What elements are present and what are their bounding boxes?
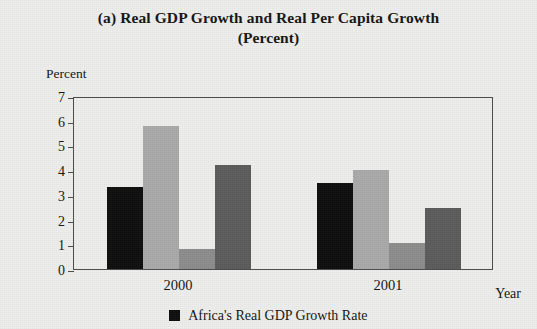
y-axis-unit-label: Percent [46,66,86,82]
bar [425,208,461,269]
bar [179,249,215,269]
bar [317,183,353,270]
x-axis-tick-label: 2000 [164,277,193,293]
y-axis-tick-label: 7 [58,91,65,105]
figure-title: (a) Real GDP Growth and Real Per Capita … [0,8,537,48]
y-axis-tick [68,172,74,173]
bar [107,187,143,269]
y-axis-tick [68,222,74,223]
y-axis-tick [68,147,74,148]
y-axis-tick [68,271,74,272]
y-axis-tick [68,123,74,124]
y-axis-tick-label: 2 [58,215,65,229]
y-axis-tick [68,197,74,198]
bar [143,126,179,269]
legend-color-swatch-icon [169,310,180,321]
bar [389,243,425,269]
plot-inner: 01234567 [74,98,492,269]
y-axis-tick-label: 4 [58,165,65,179]
y-axis-tick-label: 6 [58,116,65,130]
y-axis-tick-label: 3 [58,190,65,204]
x-axis-tick-label: 2001 [374,277,403,293]
legend-item: Africa's Real GDP Growth Rate [169,307,367,325]
chart-legend: Africa's Real GDP Growth Rate [0,307,537,325]
legend-item-label: Africa's Real GDP Growth Rate [188,308,367,323]
y-axis-tick [68,98,74,99]
y-axis-tick-label: 5 [58,140,65,154]
figure-title-line-1: (a) Real GDP Growth and Real Per Capita … [98,9,439,26]
y-axis-tick-label: 0 [58,264,65,278]
plot-area: 01234567 [73,97,493,270]
figure-title-line-2: (Percent) [0,28,537,48]
y-axis-tick [68,246,74,247]
bar [353,170,389,269]
bar [215,165,251,269]
y-axis-tick-label: 1 [58,239,65,253]
x-axis-title: Year [495,286,521,302]
